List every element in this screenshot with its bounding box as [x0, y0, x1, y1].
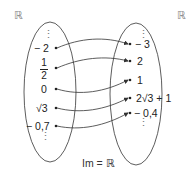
domain-value-zero: 0 [41, 84, 47, 95]
arrow-minus07 [57, 113, 128, 128]
arrow-half [57, 58, 128, 68]
image-value-two: 2 [137, 56, 143, 67]
domain-ellipsis-bottom: ⋮ [40, 131, 51, 142]
domain-ellipsis-top: ⋮ [43, 29, 54, 40]
image-value-minus04: − 0,4 [134, 108, 158, 119]
domain-value-minus2: − 2 [34, 43, 49, 54]
domain-value-minus07: − 0,7 [26, 121, 50, 132]
arrow-sqrt3 [57, 98, 128, 111]
image-value-2sqrt3plus1: 2√3 + 1 [136, 93, 171, 104]
domain-set-label: ℝ [14, 9, 23, 22]
arrow-zero [57, 80, 128, 92]
image-value-minus3: − 3 [135, 39, 150, 50]
fraction-numerator: 1 [41, 57, 47, 68]
image-value-one: 1 [137, 75, 143, 86]
codomain-set-label: ℝ [177, 9, 186, 22]
fraction-denominator: 2 [41, 70, 47, 81]
image-caption: Im = ℝ [82, 157, 115, 169]
domain-value-half: 1 2 [40, 58, 48, 81]
domain-value-sqrt3: √3 [36, 103, 48, 114]
diagram-canvas [0, 0, 195, 174]
